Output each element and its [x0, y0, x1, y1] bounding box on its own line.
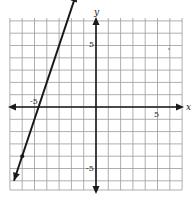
x-axis-label: x — [186, 102, 191, 112]
plotted-line — [13, 0, 77, 181]
x-axis-right-arrow-icon — [176, 104, 184, 111]
y-tick-label-neg5: -5 — [86, 164, 94, 173]
x-tick-label-5: 5 — [154, 110, 159, 119]
coordinate-plane: x y -5 5 5 -5 — [0, 0, 194, 197]
y-tick-label-5: 5 — [89, 40, 94, 49]
scan-speck — [168, 48, 169, 49]
y-axis-label: y — [93, 7, 100, 17]
line-y-equals-3x-plus-14 — [14, 0, 76, 181]
x-tick-label-neg5: -5 — [30, 97, 38, 106]
marked-point — [20, 154, 24, 158]
line-arrow-down-icon — [13, 172, 20, 181]
x-axis-left-arrow-icon — [8, 104, 16, 111]
